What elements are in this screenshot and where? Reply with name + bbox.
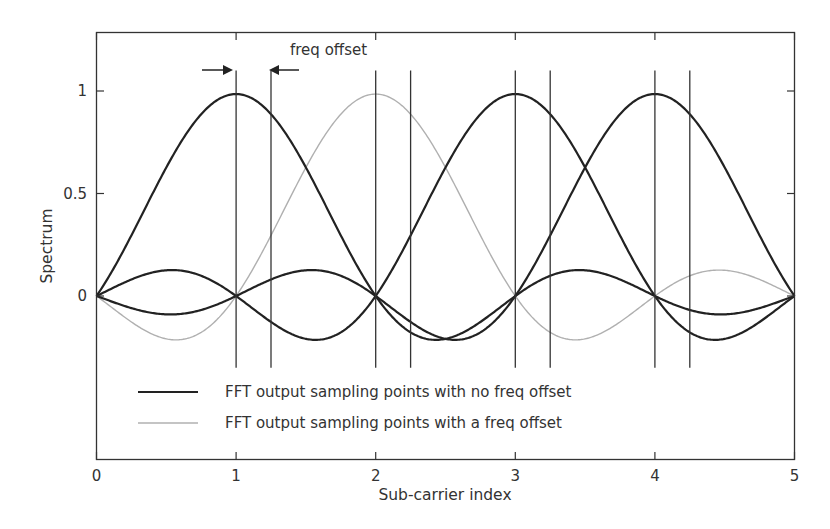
x-tick-labels: 012345 <box>92 467 800 485</box>
freq-offset-label: freq offset <box>290 41 367 59</box>
sampling-lines-group <box>236 71 690 368</box>
freq-offset-annotation: freq offset <box>202 41 367 75</box>
legend-label-with-offset: FFT output sampling points with a freq o… <box>225 414 562 432</box>
y-axis-label: Spectrum <box>38 208 56 283</box>
x-tick-label: 1 <box>231 467 241 485</box>
arrowhead-right-icon <box>223 65 233 75</box>
legend-label-no-offset: FFT output sampling points with no freq … <box>225 383 572 401</box>
x-axis-label: Sub-carrier index <box>378 486 511 504</box>
x-tick-label: 5 <box>790 467 800 485</box>
y-tick-label: 1 <box>77 82 87 100</box>
chart: 012345 00.51 Sub-carrier index Spectrum … <box>0 0 830 529</box>
legend: FFT output sampling points with no freq … <box>138 383 572 432</box>
x-tick-label: 4 <box>650 467 660 485</box>
y-tick-label: 0.5 <box>63 185 87 203</box>
x-tick-label: 2 <box>371 467 381 485</box>
x-tick-label: 0 <box>92 467 102 485</box>
x-tick-label: 3 <box>511 467 521 485</box>
y-tick-labels: 00.51 <box>63 82 87 305</box>
y-tick-label: 0 <box>77 287 87 305</box>
